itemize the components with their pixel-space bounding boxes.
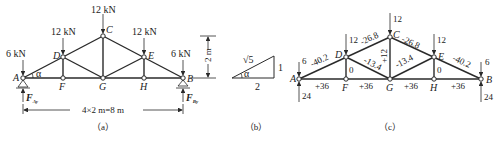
load-value-B-c: 6 <box>485 57 490 67</box>
reaction-value-B-c: 24 <box>484 92 494 102</box>
node-C-c <box>388 35 392 39</box>
member-DG <box>63 57 103 78</box>
node-H-c <box>432 77 436 81</box>
node-label-D: D <box>52 50 61 61</box>
load-value-D-c: 12 <box>349 35 358 45</box>
force-GH: +36 <box>404 81 419 91</box>
angle-arc-b <box>241 74 242 79</box>
reaction-label-B: FBy <box>185 92 199 104</box>
node-B-c <box>479 77 483 81</box>
node-label-B-c: B <box>486 74 492 85</box>
force-DC: -26.8 <box>359 30 381 47</box>
vertical-side-label: 1 <box>278 62 283 73</box>
node-A-c <box>297 77 301 81</box>
height-dimension-label: 2 m <box>203 48 213 62</box>
force-FG: +36 <box>359 81 374 91</box>
node-label-B: B <box>187 73 193 84</box>
node-E <box>142 55 146 59</box>
node-label-C-c: C <box>393 29 400 40</box>
force-CE: -26.8 <box>400 34 422 51</box>
hypotenuse-label: √5 <box>243 54 254 65</box>
truss-diagrams-svg: 6 kN 12 kN 12 kN 12 kN 6 kN A D C E B F … <box>0 0 498 142</box>
node-label-G: G <box>99 81 106 92</box>
load-label-A: 6 kN <box>6 48 26 59</box>
node-E-c <box>432 55 436 59</box>
node-H <box>142 76 146 80</box>
caption-a: （a） <box>92 122 114 132</box>
node-label-H-c: H <box>429 82 438 93</box>
node-G-c <box>388 77 392 81</box>
load-label-D: 12 kN <box>51 26 76 37</box>
node-label-D-c: D <box>334 49 343 60</box>
span-dimension-label: 4×2 m=8 m <box>82 105 124 115</box>
member-GE <box>103 57 144 78</box>
node-label-G-c: G <box>386 82 393 93</box>
force-EH: 0 <box>437 65 442 75</box>
node-label-A: A <box>12 72 20 83</box>
force-DF: 0 <box>349 65 354 75</box>
load-label-C: 12 kN <box>91 4 116 15</box>
pin-support-icon <box>18 80 28 87</box>
reaction-value-A-c: 24 <box>302 91 312 101</box>
load-value-E-c: 12 <box>437 35 446 45</box>
node-C <box>101 34 105 38</box>
caption-b: （b） <box>245 122 268 132</box>
node-F-c <box>344 77 348 81</box>
truss-figure: 6 kN 12 kN 12 kN 12 kN 6 kN A D C E B F … <box>0 0 498 142</box>
node-label-H: H <box>139 81 148 92</box>
horizontal-side-label: 2 <box>255 81 260 92</box>
node-label-F-c: F <box>341 82 349 93</box>
node-label-C: C <box>106 24 113 35</box>
load-value-A-c: 6 <box>302 56 307 66</box>
node-D-c <box>344 55 348 59</box>
caption-c: （c） <box>379 122 401 132</box>
angle-label-b: α <box>244 68 250 79</box>
node-label-A-c: A <box>289 73 297 84</box>
figure-c-member-forces: 6 12 12 12 6 24 24 A D C E B F G H -40.2… <box>289 13 494 132</box>
node-F <box>61 76 65 80</box>
node-G <box>101 76 105 80</box>
node-D <box>61 55 65 59</box>
node-label-E: E <box>147 50 154 61</box>
node-label-E-c: E <box>437 51 444 62</box>
force-HB: +36 <box>451 81 466 91</box>
force-GE: -13.4 <box>393 52 415 70</box>
figure-a-truss: 6 kN 12 kN 12 kN 12 kN 6 kN A D C E B F … <box>6 4 216 132</box>
force-AF: +36 <box>315 81 330 91</box>
angle-label: α <box>36 68 42 79</box>
force-CG: +12 <box>379 49 389 63</box>
load-value-C-c: 12 <box>393 14 402 24</box>
figure-b-triangle: α √5 1 2 （b） <box>232 54 283 132</box>
load-label-E: 12 kN <box>132 26 157 37</box>
load-label-B: 6 kN <box>171 48 191 59</box>
reaction-label-A: FAy <box>25 92 39 104</box>
node-label-F: F <box>58 81 66 92</box>
